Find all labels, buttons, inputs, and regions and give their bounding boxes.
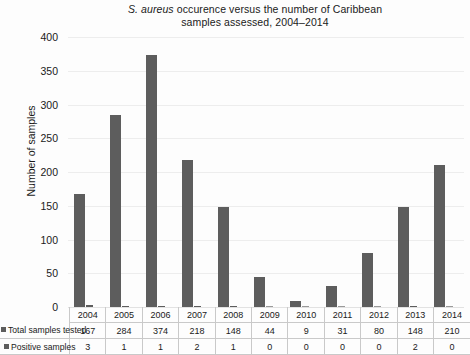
table-row: Positive samples31121000020 xyxy=(0,339,470,355)
table-cell: 210 xyxy=(434,323,470,339)
table-corner-cell xyxy=(0,307,70,323)
table-header-year-2005: 2005 xyxy=(106,307,142,323)
bar-total-2008 xyxy=(218,207,229,307)
bar-group-2007 xyxy=(182,37,212,307)
table-cell: 0 xyxy=(361,339,397,355)
table-cell: 9 xyxy=(288,323,324,339)
table-cell: 1 xyxy=(106,339,142,355)
bar-group-2005 xyxy=(110,37,140,307)
bar-group-2014 xyxy=(434,37,464,307)
bar-total-2004 xyxy=(74,194,85,307)
table-cell: 374 xyxy=(142,323,178,339)
legend-label-text: Total samples tested xyxy=(8,325,86,335)
table-header-year-2008: 2008 xyxy=(215,307,251,323)
table-header-year-2011: 2011 xyxy=(324,307,360,323)
legend-label-total-samples-tested: Total samples tested xyxy=(0,323,70,339)
bar-group-2009 xyxy=(254,37,284,307)
table-cell: 0 xyxy=(252,339,288,355)
bar-group-2008 xyxy=(218,37,248,307)
table-cell: 2 xyxy=(179,339,215,355)
table-header-year-2012: 2012 xyxy=(361,307,397,323)
table-header-year-2010: 2010 xyxy=(288,307,324,323)
legend-label-positive-samples: Positive samples xyxy=(0,339,70,355)
bar-total-2011 xyxy=(326,286,337,307)
table-cell: 44 xyxy=(252,323,288,339)
bar-total-2006 xyxy=(146,55,157,307)
data-table: 2004200520062007200820092010201120122013… xyxy=(0,307,470,353)
table-row: Total samples tested16728437421814844931… xyxy=(0,323,470,339)
bar-total-2014 xyxy=(434,165,445,307)
table-cell: 31 xyxy=(324,323,360,339)
y-axis-tick-label: 250 xyxy=(2,133,58,143)
legend-label-text: Positive samples xyxy=(11,342,75,352)
y-axis-tick-label: 200 xyxy=(2,167,58,177)
table-cell: 1 xyxy=(142,339,178,355)
table-cell: 0 xyxy=(288,339,324,355)
bar-group-2011 xyxy=(326,37,356,307)
bar-total-2005 xyxy=(110,115,121,307)
chart-title-species: S. aureus xyxy=(128,3,174,15)
table-header-year-2007: 2007 xyxy=(179,307,215,323)
table-cell: 0 xyxy=(324,339,360,355)
legend-swatch-icon xyxy=(4,344,9,349)
table-cell: 0 xyxy=(434,339,470,355)
table-header-year-2006: 2006 xyxy=(142,307,178,323)
bar-total-2009 xyxy=(254,277,265,307)
plot-area xyxy=(68,37,464,307)
table-cell: 2 xyxy=(397,339,433,355)
table-cell: 284 xyxy=(106,323,142,339)
table-cell: 148 xyxy=(215,323,251,339)
chart-title: S. aureus occurence versus the number of… xyxy=(60,3,450,29)
table-row-years: 2004200520062007200820092010201120122013… xyxy=(0,307,470,323)
table-header-year-2004: 2004 xyxy=(70,307,106,323)
bar-group-2013 xyxy=(398,37,428,307)
table-header-year-2013: 2013 xyxy=(397,307,433,323)
y-axis-tick-label: 50 xyxy=(2,268,58,278)
y-axis-tick-label: 300 xyxy=(2,100,58,110)
bar-group-2006 xyxy=(146,37,176,307)
table-cell: 148 xyxy=(397,323,433,339)
y-axis-tick-label: 100 xyxy=(2,235,58,245)
table-cell: 218 xyxy=(179,323,215,339)
bar-total-2012 xyxy=(362,253,373,307)
table-cell: 1 xyxy=(215,339,251,355)
chart-title-line2: samples assessed, 2004–2014 xyxy=(181,16,328,28)
y-axis-tick-label: 400 xyxy=(2,32,58,42)
bar-group-2010 xyxy=(290,37,320,307)
table-header-year-2009: 2009 xyxy=(252,307,288,323)
table-header-year-2014: 2014 xyxy=(434,307,470,323)
bar-group-2004 xyxy=(74,37,104,307)
legend-swatch-icon xyxy=(1,327,6,332)
table-cell: 80 xyxy=(361,323,397,339)
bar-group-2012 xyxy=(362,37,392,307)
chart-title-line1-rest: occurence versus the number of Caribbean xyxy=(174,3,382,15)
bar-total-2007 xyxy=(182,160,193,307)
bar-total-2013 xyxy=(398,207,409,307)
y-axis-tick-label: 350 xyxy=(2,66,58,76)
y-axis-tick-label: 150 xyxy=(2,201,58,211)
